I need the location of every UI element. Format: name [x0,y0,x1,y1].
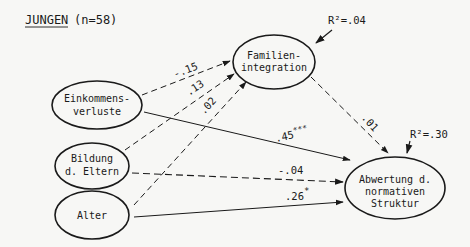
svg-text:Struktur: Struktur [371,198,419,209]
node-abwertung: Abwertung d. normativen Struktur [345,157,445,219]
diagram-title: JUNGEN (n=58) [25,13,117,27]
node-alter: Alter [55,191,129,239]
svg-text:Einkommens-: Einkommens- [64,93,130,104]
svg-text:.45***: .45*** [274,123,310,144]
node-bildung-eltern: Bildung d. Eltern [55,143,129,189]
r2-familie: R²=.04 [328,14,366,26]
svg-text:Alter: Alter [77,210,107,221]
path-alter-abwertung [134,202,343,217]
residual-arrow-abwertung [407,141,410,153]
coef-alter-abwertung: .26* [285,186,309,202]
residual-arrow-familie [316,30,332,43]
title-n: (n=58) [74,13,117,27]
svg-text:Familien-: Familien- [247,50,301,61]
path-diagram: JUNGEN (n=58) R²=.04 R²=.30 -.15 .13 .02… [0,0,470,247]
path-alter-familie [134,82,246,205]
coef-bildung-familie: .13 [184,77,206,97]
svg-text:Abwertung d.: Abwertung d. [359,174,431,185]
r2-abwertung: R²=.30 [410,128,448,140]
svg-text:normativen: normativen [365,186,425,197]
coef-einkommen-familie: -.15 [171,60,199,80]
path-familie-abwertung [311,77,388,153]
coef-bildung-abwertung: -.04 [278,164,303,176]
svg-text:d. Eltern: d. Eltern [65,166,119,177]
node-familienintegration: Familien- integration [233,35,315,89]
path-einkommen-abwertung [144,112,350,160]
path-bildung-familie [125,74,234,150]
coef-einkommen-abwertung: .45*** [274,123,310,144]
svg-text:-.15: -.15 [171,60,199,80]
title-group: JUNGEN [25,13,68,27]
path-bildung-abwertung [132,173,343,182]
svg-text:integration: integration [241,62,307,73]
svg-text:verluste: verluste [73,106,121,117]
svg-text:.26*: .26* [285,186,309,202]
coef-familie-abwertung: .01 [360,111,382,133]
svg-text:Bildung: Bildung [71,153,113,164]
node-einkommensverluste: Einkommens- verluste [52,81,142,129]
